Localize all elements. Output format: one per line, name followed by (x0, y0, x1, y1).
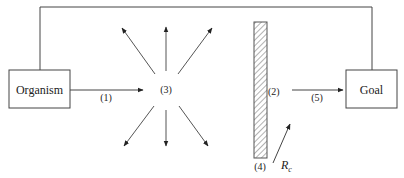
arrow-down-left (124, 106, 154, 146)
label-3: (3) (160, 84, 172, 96)
label-2: (2) (268, 86, 280, 98)
goal-label: Goal (360, 83, 384, 97)
arrow-up-left (122, 28, 155, 74)
response-label: Rc (280, 158, 292, 174)
frustration-diagram: Organism Goal (1) (3) (2) (4) (5) Rc (0, 0, 404, 178)
arrow-up-right (178, 28, 212, 74)
barrier-bar (254, 22, 267, 158)
label-4: (4) (254, 161, 266, 173)
arrow-down-right (179, 106, 208, 146)
label-5: (5) (311, 92, 323, 104)
organism-label: Organism (16, 83, 64, 97)
organism-node: Organism (9, 70, 70, 108)
organism-goal-link (40, 7, 372, 70)
response-subscript: c (288, 165, 292, 174)
label-1: (1) (100, 92, 112, 104)
goal-node: Goal (346, 70, 397, 108)
